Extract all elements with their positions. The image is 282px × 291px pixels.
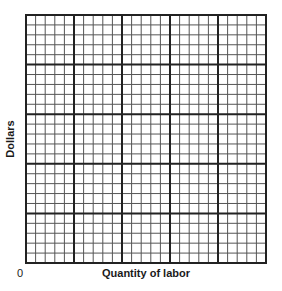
- origin-label: 0: [17, 267, 23, 279]
- plot-border: [26, 15, 266, 263]
- grid-paper: [0, 0, 282, 291]
- y-axis-label: Dollars: [4, 120, 16, 157]
- graph-grid-chart: 0 Quantity of labor Dollars: [0, 0, 282, 291]
- x-axis-label: Quantity of labor: [102, 267, 190, 279]
